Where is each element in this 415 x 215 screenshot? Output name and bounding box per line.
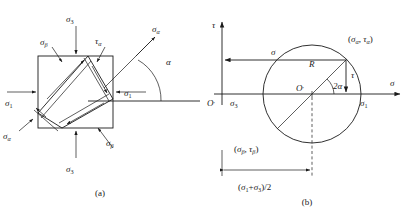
caption-b: (b) <box>302 197 313 207</box>
radius-label: R <box>308 59 315 69</box>
sigma-top-label: σ <box>271 47 276 57</box>
origin-left-label: O′ <box>207 98 216 108</box>
two-alpha-label: 2α <box>333 81 343 91</box>
stress-mohr-figure: σ3 σ3 σ1 σ1 σβ σβ σα σα τα α (a) <box>0 0 415 215</box>
caption-a: (a) <box>95 188 105 198</box>
point-beta-label: (σβ, τβ) <box>234 144 258 155</box>
circle-center-label: O′ <box>296 83 305 93</box>
alpha-angle-label: α <box>166 57 171 67</box>
sigma-axis-label: σ <box>390 78 395 88</box>
mean-stress-label: (σ1+σ3)/2 <box>238 182 271 193</box>
point-alpha-label: (σα, τα) <box>348 34 373 45</box>
